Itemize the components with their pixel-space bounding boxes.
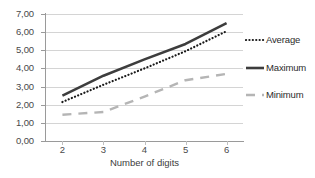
y-axis-tick-label: 4,00 [0,63,34,73]
legend-swatch-minimum-icon [245,90,265,100]
legend-label: Average [266,35,300,45]
x-axis-tick-label: 2 [52,145,72,155]
series-plot [46,14,243,141]
x-axis-tick-label: 4 [135,145,155,155]
y-axis-tick-label: 3,00 [0,82,34,92]
series-line-minimum [62,74,226,115]
y-axis-tick-label: 0,00 [0,136,34,146]
y-axis-tick-label: 2,00 [0,100,34,110]
y-axis-tick-label: 5,00 [0,45,34,55]
series-line-maximum [62,23,226,96]
chart-container: 0,001,002,003,004,005,006,007,00 23456 N… [0,0,315,178]
y-axis-tick-label: 1,00 [0,118,34,128]
x-axis-tick-label: 6 [217,145,237,155]
legend-label: Maximum [266,63,306,73]
legend-entry-maximum[interactable]: Maximum [245,62,306,74]
legend-swatch-maximum-icon [245,63,265,73]
chart-legend: AverageMaximumMinimum [245,14,315,141]
legend-entry-average[interactable]: Average [245,34,300,46]
legend-entry-minimum[interactable]: Minimum [245,89,303,101]
series-line-average [62,31,226,102]
y-axis-tick-label: 7,00 [0,9,34,19]
x-axis-tick-label: 3 [93,145,113,155]
legend-swatch-average-icon [245,35,265,45]
y-axis-tick-label: 6,00 [0,27,34,37]
y-axis-tick-mark [41,141,46,142]
x-axis-tick-label: 5 [176,145,196,155]
legend-label: Minimum [266,90,303,100]
x-axis-title: Number of digits [46,157,243,168]
